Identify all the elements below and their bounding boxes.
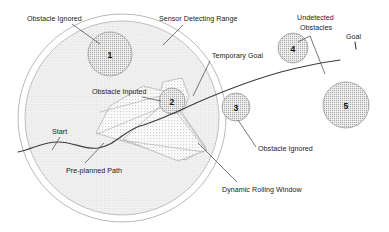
label-goal: Goal	[346, 33, 362, 41]
obstacle-1-label: 1	[108, 50, 113, 60]
obstacle-1[interactable]: 1	[88, 32, 132, 76]
label-dynamic-rolling-window: Dynamic Rolling Window	[222, 186, 302, 194]
label-temporary-goal: Temporary Goal	[212, 52, 264, 60]
obstacle-4[interactable]: 4	[278, 33, 308, 63]
obstacle-5-label: 5	[344, 101, 349, 111]
obstacle-2-label: 2	[170, 97, 175, 107]
label-pre-planned-path: Pre-planned Path	[66, 167, 122, 175]
path-planning-diagram: 1 2 3 4 5 Obstacle Ignored Sensor Detect…	[0, 0, 389, 232]
obstacle-3[interactable]: 3	[222, 93, 250, 121]
label-undetected-obstacles-line1: Undetected	[297, 14, 334, 22]
obstacle-4-label: 4	[291, 44, 296, 54]
label-obstacle-inputed: Obstacle Inputed	[92, 88, 146, 96]
obstacle-3-label: 3	[234, 103, 239, 113]
label-start: Start	[52, 128, 67, 136]
goal-marker-tick	[355, 42, 356, 49]
label-sensor-detecting-range: Sensor Detecting Range	[159, 15, 237, 23]
obstacle-5[interactable]: 5	[323, 82, 369, 128]
label-obstacle-ignored-right: Obstacle Ignored	[258, 145, 313, 153]
label-obstacle-ignored-top: Obstacle Ignored	[27, 15, 82, 23]
label-undetected-obstacles-line2: Obstacles	[300, 24, 332, 32]
leader-obstacle-ignored-right	[238, 120, 256, 147]
